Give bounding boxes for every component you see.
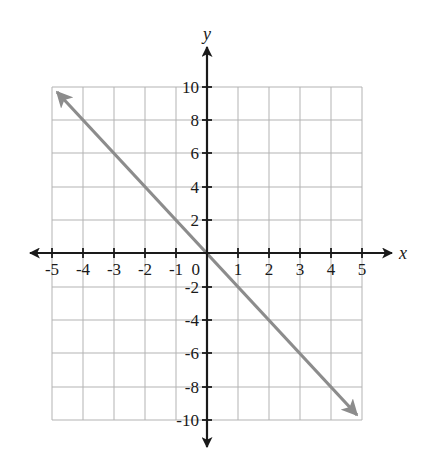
x-tick-label: -3 [107,260,121,279]
origin-label: 0 [192,260,201,279]
x-tick-label: 5 [358,260,367,279]
x-tick-label: -1 [169,260,183,279]
y-tick-label: 8 [191,111,200,130]
y-tick-label: -2 [185,278,199,297]
y-tick-label: -6 [185,344,199,363]
x-tick-label: 1 [234,260,243,279]
graph-canvas: -5 -4 -3 -2 -1 1 2 3 4 5 0 10 8 6 4 2 -2… [0,0,429,466]
x-tick-label: -4 [76,260,91,279]
y-tick-label: -4 [185,311,200,330]
coordinate-plane-figure: -5 -4 -3 -2 -1 1 2 3 4 5 0 10 8 6 4 2 -2… [0,0,429,466]
y-tick-label: 4 [191,178,200,197]
x-tick-label-group: -5 -4 -3 -2 -1 1 2 3 4 5 [45,260,366,279]
x-tick-label: -2 [138,260,152,279]
y-tick-label: 2 [191,211,200,230]
x-axis-label: x [398,243,407,263]
x-tick-label: 3 [296,260,305,279]
y-tick-label: 6 [191,144,200,163]
y-tick-label: -8 [185,378,199,397]
y-tick-label: 10 [182,78,199,97]
y-axis-label: y [201,24,211,44]
x-tick-label: -5 [45,260,59,279]
x-tick-label: 2 [265,260,274,279]
y-tick-label: -10 [176,411,199,430]
x-tick-label: 4 [327,260,336,279]
